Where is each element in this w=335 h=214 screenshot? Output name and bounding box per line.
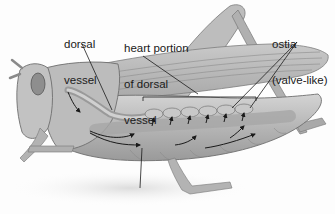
compound-eye bbox=[31, 73, 45, 95]
label-ostia-line1: ostia bbox=[272, 38, 328, 50]
label-heart-portion: heart portion of dorsal vessel bbox=[124, 18, 189, 150]
label-ostia: ostia (valve-like) bbox=[272, 14, 328, 110]
label-ostia-line2: (valve-like) bbox=[272, 74, 328, 86]
front-foot bbox=[28, 146, 74, 152]
diagram-canvas: dorsal vessel heart portion of dorsal ve… bbox=[0, 0, 335, 214]
label-dorsal-vessel-line2: vessel bbox=[64, 74, 97, 86]
label-hemocoel: hemocoel bbox=[117, 192, 167, 214]
label-heart-portion-line3: vessel bbox=[124, 114, 189, 126]
label-dorsal-vessel-line1: dorsal bbox=[64, 38, 97, 50]
label-dorsal-vessel: dorsal vessel bbox=[64, 14, 97, 110]
label-heart-portion-line1: heart portion bbox=[124, 42, 189, 54]
label-heart-portion-line2: of dorsal bbox=[124, 78, 189, 90]
